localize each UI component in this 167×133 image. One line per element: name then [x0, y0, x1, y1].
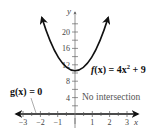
x-axis-label: x — [133, 117, 138, 127]
svg-text:2: 2 — [108, 118, 112, 127]
f-label: f(x) = 4x2 + 9 — [91, 63, 146, 76]
svg-text:16: 16 — [62, 44, 70, 53]
y-axis-label: y — [66, 6, 71, 16]
no-intersection-label: No intersection — [82, 92, 141, 102]
svg-text:4: 4 — [66, 94, 70, 103]
y-tick-labels: 4 8 12 16 20 y — [62, 6, 71, 103]
svg-text:8: 8 — [66, 77, 70, 86]
svg-text:−2: −2 — [36, 118, 45, 127]
g-label: g(x) = 0 — [10, 86, 42, 98]
svg-text:−1: −1 — [53, 118, 62, 127]
svg-text:3: 3 — [125, 118, 129, 127]
g-leader-line — [31, 98, 36, 113]
svg-text:20: 20 — [62, 28, 70, 37]
svg-text:1: 1 — [90, 118, 94, 127]
svg-text:−3: −3 — [19, 118, 28, 127]
chart-canvas: −3 −2 −1 1 2 3 x 4 8 12 16 20 y f(x) = 4… — [0, 0, 167, 133]
x-tick-labels: −3 −2 −1 1 2 3 x — [19, 117, 138, 127]
